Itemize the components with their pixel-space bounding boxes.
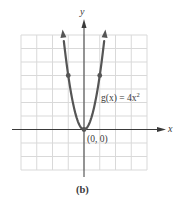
function-label-base: g(x) = 4x — [101, 93, 137, 104]
axes — [12, 19, 166, 177]
function-label: g(x) = 4x2 — [101, 91, 140, 104]
data-point — [82, 127, 87, 132]
data-point — [97, 73, 102, 78]
curve-arrow-right-icon — [102, 30, 108, 38]
origin-label: (0, 0) — [87, 134, 108, 145]
y-axis-arrow-icon — [82, 19, 87, 28]
x-axis-label: x — [167, 123, 173, 134]
curve-arrow-left-icon — [60, 30, 66, 38]
figure-caption: (b) — [76, 184, 89, 196]
x-axis-arrow-icon — [157, 127, 166, 132]
y-axis-label: y — [79, 6, 85, 17]
function-label-exponent: 2 — [136, 91, 139, 98]
data-point — [66, 73, 71, 78]
parabola-plot: y x g(x) = 4x2 (0, 0) (b) — [0, 0, 180, 207]
